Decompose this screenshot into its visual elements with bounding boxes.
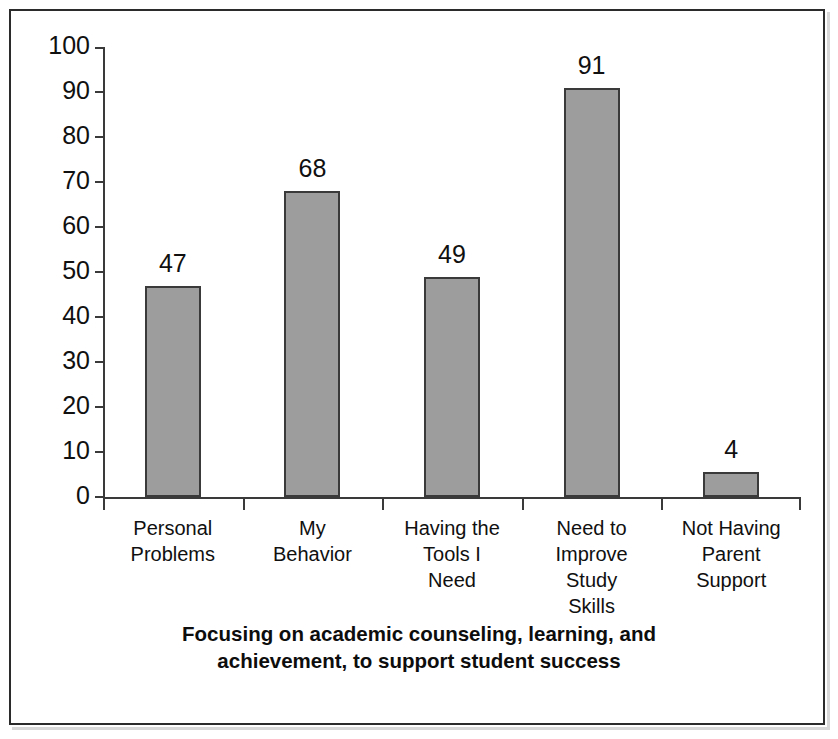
y-axis-tick-label: 100: [6, 33, 90, 58]
x-axis-tick: [382, 499, 384, 510]
y-axis-tick-label-wrap: 100: [0, 33, 90, 59]
y-axis-tick: [95, 316, 104, 318]
bar[interactable]: [284, 191, 340, 497]
y-axis-tick-label: 60: [6, 213, 90, 238]
category-label: My Behavior: [237, 515, 387, 567]
bar[interactable]: [424, 277, 480, 498]
category-label: Having the Tools I Need: [377, 515, 527, 593]
y-axis-tick-label: 30: [6, 348, 90, 373]
y-axis-tick-label-wrap: 70: [0, 168, 90, 194]
y-axis-top-tick: [95, 47, 104, 49]
y-axis-tick-label-wrap: 90: [0, 78, 90, 104]
y-axis-tick: [95, 181, 104, 183]
category-label: Personal Problems: [98, 515, 248, 567]
plot-area: 1009080706050403020100 476849914 Persona…: [0, 0, 838, 739]
y-axis-tick-label-wrap: 80: [0, 123, 90, 149]
y-axis-tick-label-wrap: 20: [0, 393, 90, 419]
y-axis-tick-label-wrap: 10: [0, 438, 90, 464]
y-axis-tick-label: 80: [6, 123, 90, 148]
y-axis-tick-label: 0: [6, 483, 90, 508]
y-axis-tick: [95, 496, 104, 498]
y-axis-tick-label-wrap: 50: [0, 258, 90, 284]
x-axis-tick: [522, 499, 524, 510]
y-axis-tick: [95, 271, 104, 273]
bar[interactable]: [564, 88, 620, 498]
y-axis-tick: [95, 406, 104, 408]
bar-value-label: 91: [532, 52, 652, 78]
y-axis-tick-label: 50: [6, 258, 90, 283]
y-axis-tick: [95, 361, 104, 363]
x-axis-tick: [661, 499, 663, 510]
bar-value-label: 47: [113, 250, 233, 276]
y-axis-tick-label-wrap: 0: [0, 483, 90, 509]
y-axis-tick-label: 20: [6, 393, 90, 418]
bar[interactable]: [145, 286, 201, 498]
x-axis-right-end-tick: [799, 499, 801, 510]
y-axis-tick-label-wrap: 60: [0, 213, 90, 239]
bar-value-label: 49: [392, 241, 512, 267]
y-axis-tick-label-wrap: 30: [0, 348, 90, 374]
x-axis-line: [103, 497, 801, 499]
y-axis-tick-label: 70: [6, 168, 90, 193]
y-axis-tick-label: 40: [6, 303, 90, 328]
x-axis-left-end-tick: [103, 499, 105, 510]
bar-value-label: 4: [671, 436, 791, 462]
chart-page: 1009080706050403020100 476849914 Persona…: [0, 0, 838, 739]
y-axis-line: [103, 47, 105, 499]
chart-title-line-1: Focusing on academic counseling, learnin…: [60, 620, 778, 647]
chart-title-line-2: achievement, to support student success: [60, 647, 778, 674]
y-axis-tick-label: 10: [6, 438, 90, 463]
category-label: Need to Improve Study Skills: [517, 515, 667, 619]
bar[interactable]: [703, 472, 759, 497]
y-axis-tick: [95, 451, 104, 453]
category-label: Not Having Parent Support: [656, 515, 806, 593]
y-axis-tick-label-wrap: 40: [0, 303, 90, 329]
y-axis-tick-label: 90: [6, 78, 90, 103]
bar-value-label: 68: [252, 155, 372, 181]
x-axis-tick: [243, 499, 245, 510]
y-axis-tick: [95, 91, 104, 93]
y-axis-tick: [95, 226, 104, 228]
y-axis-tick: [95, 136, 104, 138]
chart-title: Focusing on academic counseling, learnin…: [60, 620, 778, 674]
